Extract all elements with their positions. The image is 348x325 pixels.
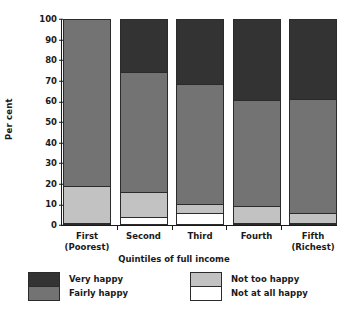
stacked-bar[interactable] bbox=[176, 19, 224, 225]
x-axis-label: Third bbox=[176, 231, 224, 253]
x-axis-label: Fifth(Richest) bbox=[289, 231, 337, 253]
x-axis-label-line: (Richest) bbox=[289, 242, 337, 253]
bar-column bbox=[63, 19, 111, 225]
bar-column bbox=[120, 19, 168, 225]
bar-segment-fairly bbox=[64, 20, 110, 187]
y-tick-label: 80 bbox=[45, 56, 63, 65]
bar-group bbox=[63, 19, 337, 225]
legend-label: Not at all happy bbox=[231, 286, 308, 300]
x-axis-label-line: (Poorest) bbox=[63, 242, 111, 253]
x-axis-ticks bbox=[63, 225, 337, 230]
x-axis-label-line: Fourth bbox=[233, 231, 281, 242]
bar-segment-nottoo bbox=[234, 207, 280, 224]
x-tick-mark bbox=[117, 225, 118, 230]
legend-label: Not too happy bbox=[231, 272, 308, 286]
bar-segment-fairly bbox=[234, 101, 280, 207]
bar-segment-nottoo bbox=[177, 205, 223, 214]
legend-swatch-notatall bbox=[191, 286, 221, 300]
bar-segment-very bbox=[121, 20, 167, 73]
y-tick-label: 50 bbox=[45, 118, 63, 127]
y-tick-label: 70 bbox=[45, 77, 63, 86]
x-tick-mark bbox=[172, 225, 173, 230]
x-tick-mark bbox=[226, 225, 227, 230]
legend-swatch-very bbox=[29, 273, 59, 286]
bar-segment-nottoo bbox=[121, 193, 167, 217]
legend-column-right: Not too happyNot at all happy bbox=[190, 272, 308, 301]
bar-segment-fairly bbox=[177, 85, 223, 204]
legend-column-left: Very happyFairly happy bbox=[28, 272, 128, 301]
legend-swatches-right bbox=[190, 272, 222, 301]
x-axis-label-line: First bbox=[63, 231, 111, 242]
y-tick-label: 20 bbox=[45, 180, 63, 189]
legend-swatch-nottoo bbox=[191, 273, 221, 286]
legend-label: Fairly happy bbox=[69, 286, 128, 300]
legend-swatch-fairly bbox=[29, 286, 59, 300]
stacked-bar[interactable] bbox=[63, 19, 111, 225]
x-tick-mark bbox=[281, 225, 282, 230]
x-axis-label-line: Third bbox=[176, 231, 224, 242]
y-axis-title: Per cent bbox=[4, 0, 14, 78]
x-axis-label: Second bbox=[120, 231, 168, 253]
x-axis-label: Fourth bbox=[233, 231, 281, 253]
legend: Very happyFairly happy Not too happyNot … bbox=[0, 272, 348, 318]
x-axis-label: First(Poorest) bbox=[63, 231, 111, 253]
x-axis-label-line: Second bbox=[120, 231, 168, 242]
y-tick-label: 10 bbox=[45, 200, 63, 209]
y-tick-label: 90 bbox=[45, 35, 63, 44]
bar-segment-very bbox=[177, 20, 223, 85]
stacked-bar[interactable] bbox=[289, 19, 337, 225]
stacked-bar[interactable] bbox=[120, 19, 168, 225]
x-axis-title: Quintiles of full income bbox=[0, 254, 348, 264]
y-tick-label: 40 bbox=[45, 138, 63, 147]
plot-area: 0102030405060708090100 bbox=[63, 19, 337, 225]
bar-segment-notatall bbox=[177, 214, 223, 224]
x-axis-labels: First(Poorest)SecondThirdFourthFifth(Ric… bbox=[63, 231, 337, 253]
y-tick-label: 100 bbox=[39, 15, 63, 24]
bar-segment-very bbox=[234, 20, 280, 101]
legend-swatches-left bbox=[28, 272, 60, 301]
bar-segment-very bbox=[290, 20, 336, 100]
legend-labels-left: Very happyFairly happy bbox=[69, 272, 128, 300]
legend-labels-right: Not too happyNot at all happy bbox=[231, 272, 308, 300]
bar-segment-nottoo bbox=[290, 214, 336, 224]
y-tick-label: 30 bbox=[45, 159, 63, 168]
x-axis-label-line: Fifth bbox=[289, 231, 337, 242]
bar-segment-nottoo bbox=[64, 187, 110, 224]
legend-label: Very happy bbox=[69, 272, 128, 286]
bar-column bbox=[176, 19, 224, 225]
bar-segment-notatall bbox=[121, 218, 167, 224]
bar-column bbox=[289, 19, 337, 225]
bar-segment-fairly bbox=[290, 100, 336, 214]
y-axis-title-text: Per cent bbox=[4, 98, 14, 140]
bar-segment-fairly bbox=[121, 73, 167, 193]
bar-column bbox=[233, 19, 281, 225]
stacked-bar[interactable] bbox=[233, 19, 281, 225]
y-tick-label: 60 bbox=[45, 97, 63, 106]
stacked-bar-chart: Per cent 0102030405060708090100 First(Po… bbox=[0, 0, 348, 325]
